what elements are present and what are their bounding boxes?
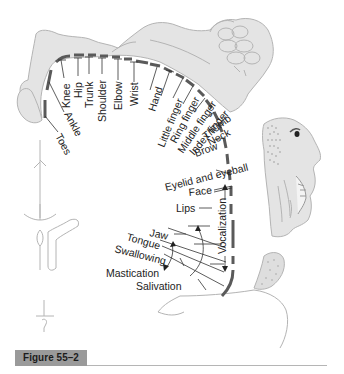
label-elbow: Elbow xyxy=(112,81,124,110)
label-shoulder: Shoulder xyxy=(96,79,108,122)
caption-rule-divider xyxy=(87,365,327,366)
label-toes: Toes xyxy=(53,131,74,156)
motor-homunculus-diagram: Toes Ankle Knee Hip Trunk Shoulder Elbow… xyxy=(0,0,344,374)
label-face: Face xyxy=(188,184,213,198)
pharynx xyxy=(254,253,284,290)
label-wrist: Wrist xyxy=(128,82,140,106)
label-lips: Lips xyxy=(176,202,195,214)
homunculus-head xyxy=(263,118,321,237)
label-knee: Knee xyxy=(60,83,72,108)
label-vocalization: Vocalization xyxy=(216,198,228,254)
figure-caption: Figure 55–2 xyxy=(23,351,79,363)
label-salivation: Salivation xyxy=(136,280,182,292)
label-hand: Hand xyxy=(145,85,164,113)
abdominal-outline xyxy=(158,290,288,348)
left-outline-shapes xyxy=(24,140,79,332)
label-trunk: Trunk xyxy=(83,81,95,108)
label-mastication: Mastication xyxy=(106,267,159,279)
